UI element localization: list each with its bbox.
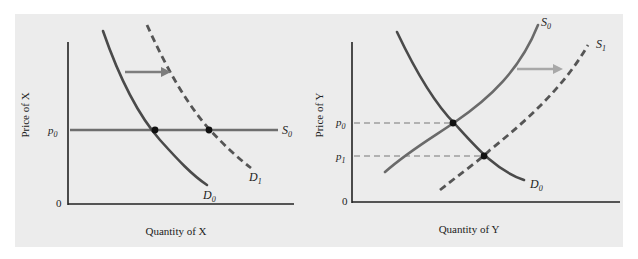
right-equilibrium-s0-dot — [450, 120, 457, 127]
right-y-axis-title: Price of Y — [313, 93, 325, 138]
right-equilibrium-s1-dot — [481, 153, 488, 160]
right-origin-label: 0 — [342, 195, 348, 207]
left-equilibrium-d1-dot — [206, 127, 213, 134]
left-x-axis-title: Quantity of X — [145, 225, 206, 237]
right-x-axis-title: Quantity of Y — [439, 223, 500, 235]
left-equilibrium-d0-dot — [152, 127, 159, 134]
left-y-axis-title: Price of X — [19, 92, 31, 137]
supply-demand-figure: Price of X Quantity of X 0 p0 S0 D0 D1 P… — [0, 0, 638, 259]
left-origin-label: 0 — [56, 197, 62, 209]
